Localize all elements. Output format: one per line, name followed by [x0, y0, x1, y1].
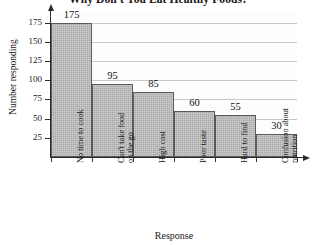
chart-figure: Why Don't You Eat Healthy Foods? Number …	[0, 0, 317, 245]
y-tick-label: 100	[16, 74, 42, 84]
x-tick-mark	[215, 158, 216, 162]
y-tick-mark	[45, 119, 50, 120]
x-axis-arrow-icon	[303, 155, 310, 161]
y-tick-label: 50	[16, 113, 42, 123]
x-axis-line	[50, 157, 304, 158]
x-axis-title: Response	[51, 230, 297, 241]
x-category-label: Poor taste	[199, 85, 208, 163]
y-tick-label: 125	[16, 55, 42, 65]
y-tick-label: 75	[16, 93, 42, 103]
bar-value-label: 55	[209, 101, 262, 112]
y-tick-label: 150	[16, 36, 42, 46]
x-tick-mark	[256, 158, 257, 162]
y-tick-mark	[45, 99, 50, 100]
bar	[174, 111, 215, 157]
y-tick-mark	[45, 23, 50, 24]
x-category-label: Hard to find	[240, 85, 249, 163]
x-tick-mark	[174, 158, 175, 162]
x-category-label: Confusion about nutrition	[281, 85, 299, 163]
x-tick-mark	[133, 158, 134, 162]
y-tick-mark	[45, 138, 50, 139]
x-category-label: High cost	[158, 85, 167, 163]
y-axis-line	[50, 10, 51, 157]
y-tick-mark	[45, 42, 50, 43]
x-category-label: No time to cook	[76, 85, 85, 163]
bar	[51, 23, 92, 157]
x-tick-mark	[297, 158, 298, 162]
bar-value-label: 85	[127, 78, 180, 89]
bar-value-label: 175	[45, 9, 98, 20]
x-category-label: Can't take food on the go	[117, 85, 135, 163]
y-tick-mark	[45, 80, 50, 81]
y-tick-label: 175	[16, 17, 42, 27]
x-tick-mark	[92, 158, 93, 162]
x-tick-mark	[51, 158, 52, 162]
y-tick-label: 25	[16, 132, 42, 142]
y-tick-mark	[45, 61, 50, 62]
